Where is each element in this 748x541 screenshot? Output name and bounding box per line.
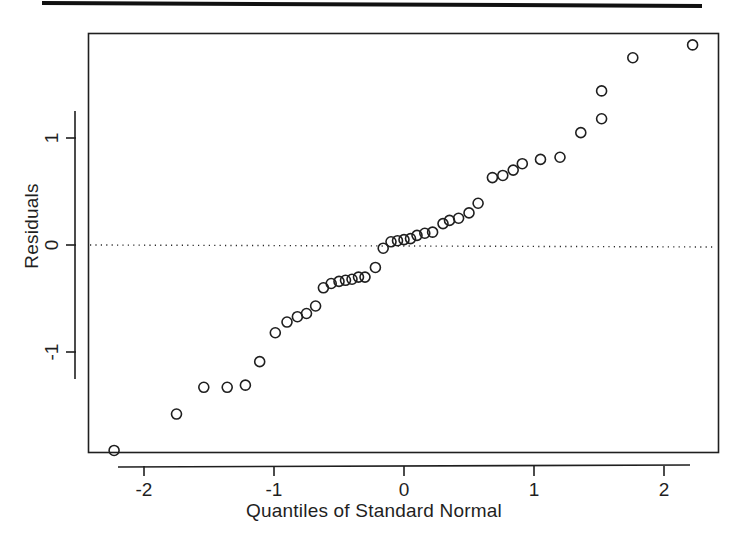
data-point-marker xyxy=(347,274,357,284)
data-point-marker xyxy=(222,382,232,392)
y-axis-title-wrapper: Residuals xyxy=(0,0,60,470)
data-point-marker xyxy=(508,165,518,175)
x-axis xyxy=(118,465,690,476)
data-point-marker xyxy=(688,40,698,50)
data-point-marker xyxy=(454,213,464,223)
data-point-marker xyxy=(473,198,483,208)
plot-frame xyxy=(89,34,719,453)
data-points xyxy=(109,40,698,456)
data-point-marker xyxy=(536,154,546,164)
y-axis-title: Residuals xyxy=(21,166,43,286)
x-axis-title: Quantiles of Standard Normal xyxy=(0,500,748,522)
data-point-marker xyxy=(199,382,209,392)
data-point-marker xyxy=(498,170,508,180)
data-point-marker xyxy=(360,272,370,282)
data-point-marker xyxy=(302,308,312,318)
data-point-marker xyxy=(370,262,380,272)
data-point-marker xyxy=(597,86,607,96)
data-point-marker xyxy=(597,114,607,124)
qq-plot-figure: -2-1012 -101 Quantiles of Standard Norma… xyxy=(0,0,748,541)
data-point-marker xyxy=(282,317,292,327)
x-tick-label: 0 xyxy=(399,479,410,501)
y-axis xyxy=(66,111,76,379)
data-point-marker xyxy=(517,159,527,169)
x-tick-label: -1 xyxy=(266,479,283,501)
data-point-marker xyxy=(172,409,182,419)
data-point-marker xyxy=(576,128,586,138)
x-tick-label: 1 xyxy=(529,479,540,501)
x-tick-label: 2 xyxy=(659,479,670,501)
data-point-marker xyxy=(240,380,250,390)
x-tick-label: -2 xyxy=(136,479,153,501)
data-point-marker xyxy=(487,173,497,183)
page-canvas: -2-1012 -101 Quantiles of Standard Norma… xyxy=(0,0,748,541)
data-point-marker xyxy=(255,357,265,367)
data-point-marker xyxy=(311,301,321,311)
plot-area-svg xyxy=(0,0,748,541)
data-point-marker xyxy=(628,53,638,63)
data-point-marker xyxy=(555,152,565,162)
data-point-marker xyxy=(464,208,474,218)
data-point-marker xyxy=(270,328,280,338)
data-point-marker xyxy=(109,445,119,455)
